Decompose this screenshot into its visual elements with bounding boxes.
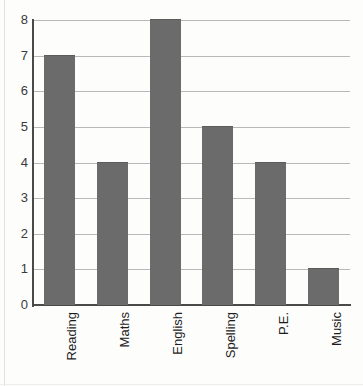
x-axis-category-label: P.E.	[277, 312, 290, 335]
bar	[255, 162, 286, 306]
y-axis-tick-label: 5	[4, 120, 28, 133]
y-axis-tick-label: 0	[4, 298, 28, 311]
y-axis-tick-label: 8	[4, 13, 28, 26]
y-axis-tick-label: 3	[4, 191, 28, 204]
y-axis-tick-label: 4	[4, 156, 28, 169]
x-axis-category-label: Reading	[65, 312, 78, 360]
y-axis-tick-label: 1	[4, 262, 28, 275]
y-axis-tick-label: 2	[4, 227, 28, 240]
bar-chart-figure: 876543210 ReadingMathsEnglishSpellingP.E…	[0, 0, 363, 386]
bar	[202, 126, 233, 305]
x-axis-category-label: Maths	[118, 312, 131, 347]
scan-edge-bottom	[0, 384, 363, 385]
x-axis-category-label: Spelling	[224, 312, 237, 358]
plot-area	[33, 20, 350, 305]
bar	[97, 162, 128, 306]
y-axis-tick-label: 6	[4, 84, 28, 97]
x-axis-category-label: Music	[330, 312, 343, 346]
y-axis-tick-label: 7	[4, 49, 28, 62]
bar	[44, 55, 75, 305]
bar	[150, 19, 181, 305]
x-axis-category-label: English	[171, 312, 184, 355]
bar	[308, 268, 339, 305]
